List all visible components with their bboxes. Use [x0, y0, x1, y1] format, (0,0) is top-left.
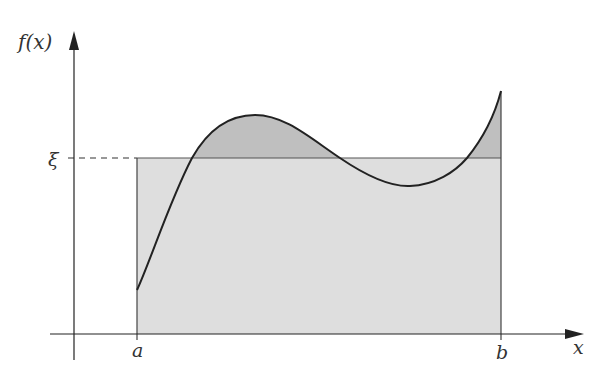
xi-label: ξ — [48, 148, 60, 170]
x-axis-label: x — [573, 336, 584, 358]
y-axis-arrow-icon — [69, 31, 79, 50]
y-axis-label: f(x) — [16, 30, 52, 54]
mean-value-diagram: f(x) ξ a b x — [0, 0, 615, 378]
b-label: b — [496, 341, 508, 363]
mean-value-rectangle — [137, 158, 501, 334]
diagram-canvas: f(x) ξ a b x — [0, 0, 615, 378]
a-label: a — [132, 339, 143, 361]
